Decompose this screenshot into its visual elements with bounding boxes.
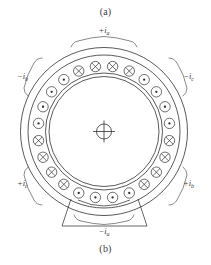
phase-current-label-top: +ia: [98, 25, 109, 36]
slot-current-into-page-icon: [38, 152, 48, 162]
slot-current-into-page-icon: [90, 61, 100, 71]
slot-current-out-of-page-icon: [107, 192, 117, 202]
figure-caption-b: (b): [0, 243, 211, 254]
slot-current-out-of-page-icon: [90, 192, 100, 202]
slot-current-into-page-icon: [59, 179, 69, 189]
slot-current-out-of-page-icon: [151, 87, 161, 97]
phase-current-label-lower-left: +ic: [17, 178, 28, 189]
slot-current-out-of-page-icon: [74, 188, 84, 198]
machine-base: [62, 199, 147, 226]
slot-current-out-of-page-icon: [139, 74, 149, 84]
slot-current-out-of-page-icon: [59, 74, 69, 84]
slot-current-into-page-icon: [107, 61, 117, 71]
slot-current-into-page-icon: [74, 66, 84, 76]
slot-current-into-page-icon: [124, 66, 134, 76]
slot-current-into-page-icon: [46, 167, 56, 177]
slot-current-into-page-icon: [151, 167, 161, 177]
slot-current-into-page-icon: [139, 179, 149, 189]
phase-current-label-lower-right: +ib: [183, 178, 194, 189]
machine-cross-section-diagram: +ia−ib−ic+ic+ib−ia: [0, 0, 211, 265]
phase-current-label-bottom: −ia: [98, 226, 109, 237]
slot-current-into-page-icon: [164, 135, 174, 145]
phase-current-label-upper-left: −ib: [17, 71, 28, 82]
shaft-center-crosshair: [93, 121, 115, 143]
slot-current-out-of-page-icon: [164, 118, 174, 128]
slot-current-into-page-icon: [160, 152, 170, 162]
slot-current-into-page-icon: [33, 135, 43, 145]
slot-current-out-of-page-icon: [38, 102, 48, 112]
phase-current-label-upper-right: −ic: [183, 71, 194, 82]
slot-current-out-of-page-icon: [124, 188, 134, 198]
slot-current-out-of-page-icon: [33, 118, 43, 128]
slot-current-out-of-page-icon: [46, 87, 56, 97]
slot-current-out-of-page-icon: [160, 102, 170, 112]
figure-root: (a): [0, 0, 211, 265]
